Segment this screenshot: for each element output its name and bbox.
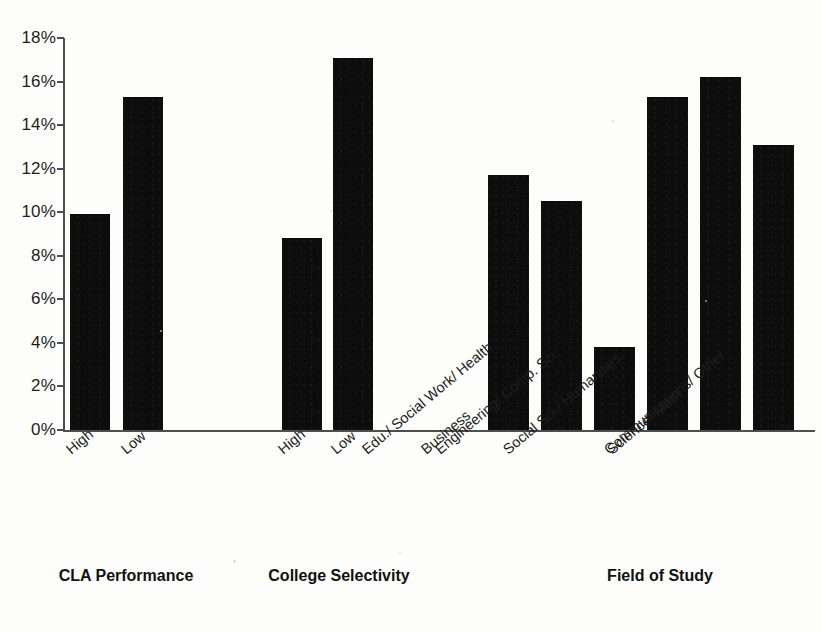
cat-label-cla-low: Low: [118, 428, 149, 457]
bar-field-communications: [753, 145, 794, 430]
group-title-college-selectivity: College Selectivity: [224, 567, 454, 585]
bar-selectivity-high: [282, 238, 322, 430]
group-title-field-of-study: Field of Study: [560, 567, 760, 585]
scan-speck: [233, 560, 236, 563]
y-axis-tick-mark: [57, 81, 64, 83]
bar-chart: 18%16%14%12%10%8%6%4%2%0% HighLowHighLow…: [0, 0, 821, 632]
y-axis-tick-mark: [57, 385, 64, 387]
y-axis-tick-mark: [57, 168, 64, 170]
y-axis-tick-mark: [57, 211, 64, 213]
y-axis-tick-mark: [57, 429, 64, 431]
bar-cla-high: [70, 214, 110, 430]
group-title-cla-performance: CLA Performance: [16, 567, 236, 585]
bar-cla-low: [123, 97, 163, 430]
group-titles: CLA PerformanceCollege SelectivityField …: [0, 567, 821, 597]
y-axis-tick-mark: [57, 37, 64, 39]
cat-label-cla-high: High: [63, 426, 96, 457]
scan-speck: [399, 552, 401, 554]
scan-speck: [330, 210, 332, 212]
y-axis-tick-mark: [57, 124, 64, 126]
cat-label-selectivity-low: Low: [328, 428, 359, 457]
y-axis-tick-mark: [57, 298, 64, 300]
y-axis-tick-mark: [57, 342, 64, 344]
y-axis-tick-mark: [57, 255, 64, 257]
bar-selectivity-low: [333, 58, 373, 430]
scan-speck: [612, 120, 614, 122]
scan-speck: [705, 300, 707, 302]
scan-speck: [160, 330, 162, 332]
x-axis-category-labels: HighLowHighLowBusinessEdu./ Social Work/…: [0, 431, 821, 561]
cat-label-selectivity-high: High: [275, 426, 308, 457]
